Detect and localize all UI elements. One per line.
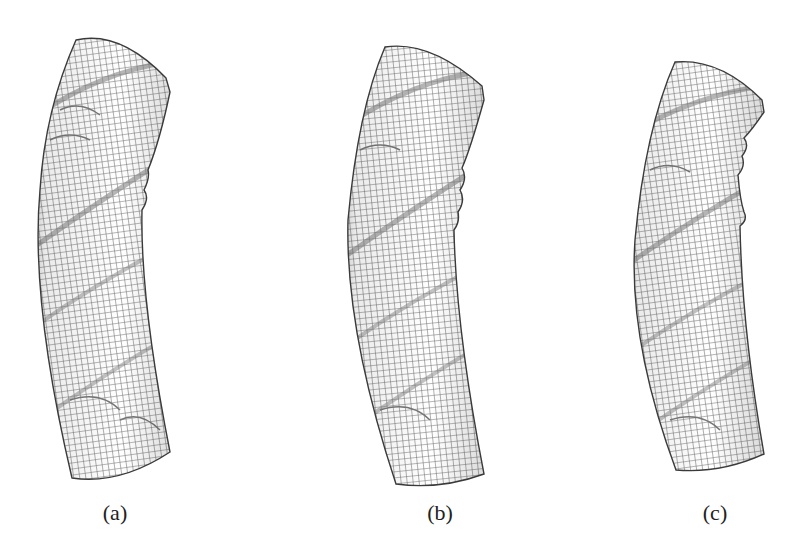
helical-bands-a: [20, 20, 190, 500]
figure-canvas: [0, 0, 795, 558]
tube-mesh-c: [615, 50, 775, 480]
tube-mesh-b: [330, 30, 500, 500]
panel-label-b: (b): [427, 500, 453, 526]
helical-bands-b: [330, 30, 500, 500]
helical-bands-c: [615, 50, 775, 480]
tube-mesh-a: [20, 20, 190, 500]
panel-label-c: (c): [703, 500, 727, 526]
panel-label-a: (a): [103, 500, 127, 526]
